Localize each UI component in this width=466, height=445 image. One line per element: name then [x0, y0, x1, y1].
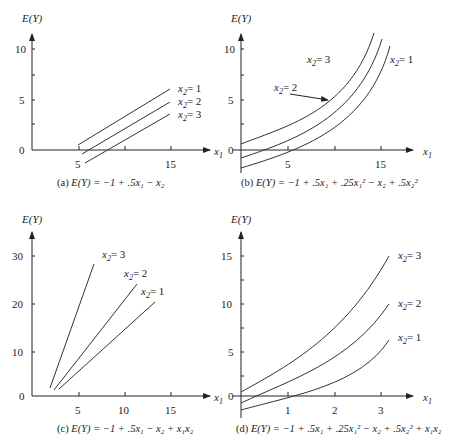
caption-d: (d) E(Y) = −1 + .5x₁ + .25x₁² − x₂ + .5x… — [236, 423, 442, 435]
y-axis-label: E(Y) — [230, 12, 252, 25]
series-label-x2-2: x2= 2 — [273, 81, 297, 96]
x-axis-label: x1 — [213, 145, 223, 160]
series-label-x2-3: x2= 3 — [177, 108, 202, 123]
caption-a: (a) E(Y) = −1 + .5x₁ − x₂ — [57, 177, 165, 189]
x-tick-label: 5 — [285, 158, 291, 170]
y-tick-label: 30 — [12, 250, 24, 262]
series-label-x2-2: x2= 2 — [397, 297, 421, 312]
x-tick-label: 15 — [165, 158, 177, 170]
line-x2-2 — [82, 102, 170, 154]
x-tick-label: 1 — [285, 404, 291, 416]
y-tick-label: 0 — [228, 390, 234, 402]
panel-b: E(Y) 10 5 0 5 15 x1 x2= 3 x2= 1 x2= 2 (b… — [224, 12, 432, 189]
line-x2-2 — [54, 284, 137, 390]
curve-x2-1 — [241, 340, 389, 410]
y-axis-label: E(Y) — [21, 12, 43, 25]
x-axis-label: x1 — [422, 145, 432, 160]
y-tick-label: 10 — [15, 43, 27, 55]
y-tick-label: 10 — [221, 298, 233, 310]
curve-x2-3 — [241, 33, 374, 144]
line-x2-1 — [59, 302, 155, 389]
panel-a: E(Y) 10 5 0 5 15 x1 x2= 1 x2= 2 x2= 3 (a… — [15, 12, 223, 189]
series-label-x2-1: x2= 1 — [140, 285, 164, 300]
y-tick-label: 0 — [19, 390, 25, 402]
x-tick-label: 15 — [165, 404, 177, 416]
y-tick-label: 10 — [12, 346, 24, 358]
line-x2-3 — [85, 114, 170, 163]
arrow-icon — [290, 94, 328, 100]
x-tick-label: 10 — [118, 404, 130, 416]
y-tick-label: 5 — [228, 346, 234, 358]
series-label-x2-3: x2= 3 — [101, 248, 126, 263]
y-axis-label: E(Y) — [230, 213, 252, 226]
line-x2-3 — [50, 264, 94, 388]
series-label-x2-3: x2= 3 — [306, 53, 331, 68]
line-x2-1 — [78, 89, 170, 145]
y-tick-label: 10 — [224, 43, 236, 55]
series-label-x2-1: x2= 1 — [397, 331, 421, 346]
x-tick-label: 2 — [332, 404, 338, 416]
x-axis-label: x1 — [213, 391, 223, 406]
y-tick-label: 5 — [19, 94, 25, 106]
x-axis-label: x1 — [422, 391, 432, 406]
caption-b: (b) E(Y) = −1 + .5x₁ + .25x₁² − x₂ + .5x… — [241, 177, 418, 189]
x-tick-label: 3 — [378, 404, 384, 416]
series-label-x2-3: x2= 3 — [397, 249, 422, 264]
curve-x2-3 — [241, 256, 389, 392]
panel-d: E(Y) 15 10 5 0 1 2 3 x1 x2= 3 x2= 2 x2= … — [221, 213, 442, 435]
y-tick-label: 5 — [228, 94, 234, 106]
series-label-x2-2: x2= 2 — [123, 267, 147, 282]
series-label-x2-1: x2= 1 — [389, 53, 413, 68]
y-tick-label: 0 — [19, 144, 25, 156]
panel-c: E(Y) 30 20 10 0 5 10 15 x1 x2= 3 x2= 2 x… — [12, 213, 223, 435]
figure-four-panels: E(Y) 10 5 0 5 15 x1 x2= 1 x2= 2 x2= 3 (a… — [0, 0, 466, 445]
y-tick-label: 15 — [221, 250, 233, 262]
x-tick-label: 15 — [375, 158, 387, 170]
y-tick-label: 20 — [12, 298, 24, 310]
y-axis-label: E(Y) — [21, 213, 43, 226]
x-tick-label: 5 — [75, 158, 81, 170]
caption-c: (c) E(Y) = −1 + .5x₁ − x₂ + x₁x₂ — [57, 423, 194, 435]
x-tick-label: 5 — [75, 404, 81, 416]
y-tick-label: 0 — [228, 144, 234, 156]
curve-x2-2 — [241, 304, 389, 403]
